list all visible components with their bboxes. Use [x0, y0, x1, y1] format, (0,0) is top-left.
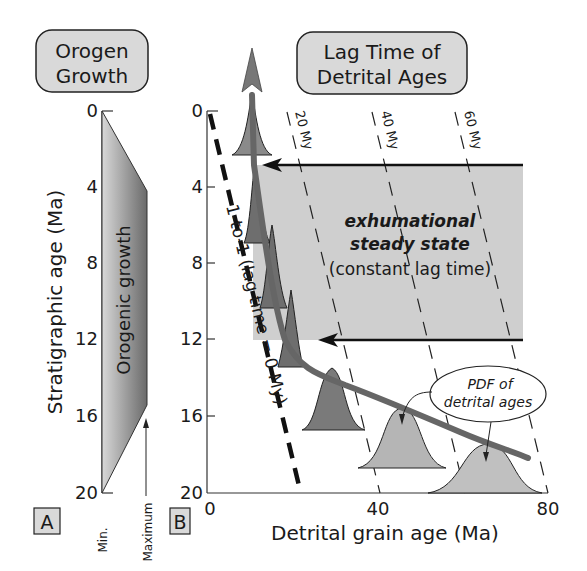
- panel-b-title-line2: Detrital Ages: [317, 65, 447, 89]
- panel-b: Lag Time of Detrital Ages 0 4 8 12 16 20…: [170, 32, 559, 545]
- svg-text:12: 12: [180, 328, 203, 349]
- pdf-label-line2: detrital ages: [444, 394, 532, 410]
- figure: Orogen Growth 0 4 8 12 16 20 Stratigraph…: [0, 0, 587, 571]
- panel-a-label: A: [41, 511, 54, 533]
- pdf-label-line1: PDF of: [467, 376, 514, 392]
- panel-a-y-tick-labels: 0 4 8 12 16 20: [75, 100, 98, 503]
- steady-state-line1: exhumational: [345, 211, 477, 231]
- svg-text:8: 8: [192, 252, 203, 273]
- panel-b-x-axis-label: Detrital grain age (Ma): [271, 521, 499, 545]
- svg-text:8: 8: [87, 252, 98, 273]
- svg-text:0: 0: [204, 498, 215, 519]
- svg-text:16: 16: [75, 405, 98, 426]
- panel-a: Orogen Growth 0 4 8 12 16 20 Stratigraph…: [34, 30, 155, 562]
- svg-text:4: 4: [87, 176, 98, 197]
- max-arrow-head-icon: [143, 418, 149, 428]
- svg-text:40: 40: [367, 498, 390, 519]
- panel-a-title-line1: Orogen: [55, 39, 128, 63]
- panel-a-title-line2: Growth: [56, 64, 128, 88]
- svg-text:4: 4: [192, 176, 203, 197]
- svg-text:20 My: 20 My: [292, 109, 316, 151]
- panel-b-y-ticks: [207, 111, 218, 416]
- svg-text:20: 20: [180, 482, 203, 503]
- svg-text:0: 0: [87, 100, 98, 121]
- steady-state-line2: steady state: [350, 234, 470, 254]
- panel-a-y-axis-label: Stratigraphic age (Ma): [43, 190, 67, 415]
- svg-text:0: 0: [192, 100, 203, 121]
- panel-b-y-tick-labels: 0 4 8 12 16 20: [180, 100, 203, 503]
- svg-text:40 My: 40 My: [378, 109, 402, 151]
- panel-b-x-tick-labels: 0 40 80: [204, 498, 559, 519]
- steady-state-line3: (constant lag time): [329, 259, 491, 279]
- svg-text:80: 80: [537, 498, 560, 519]
- panel-b-title-line1: Lag Time of: [323, 40, 441, 64]
- svg-text:20: 20: [75, 482, 98, 503]
- panel-b-label: B: [173, 511, 186, 533]
- svg-text:16: 16: [180, 405, 203, 426]
- max-label: Maximum: [141, 502, 155, 561]
- orogenic-growth-label: Orogenic growth: [113, 225, 134, 374]
- svg-text:12: 12: [75, 328, 98, 349]
- min-label: Min.: [96, 527, 110, 552]
- upward-arrow-icon: [242, 48, 262, 92]
- svg-text:60 My: 60 My: [461, 109, 485, 151]
